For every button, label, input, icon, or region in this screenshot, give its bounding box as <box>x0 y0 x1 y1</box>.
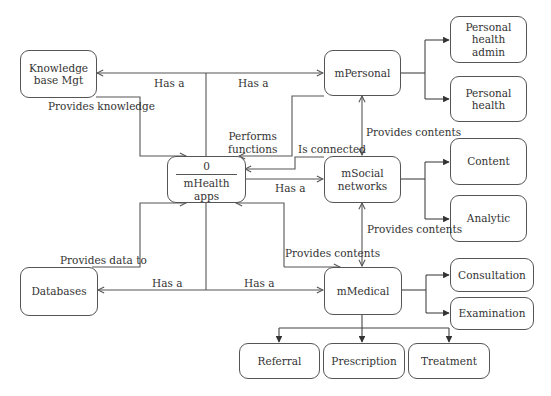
node-label: Personal health admin <box>466 21 512 59</box>
node-personal-health-admin[interactable]: Personal health admin <box>450 16 527 63</box>
node-databases[interactable]: Databases <box>20 267 98 316</box>
edge-label-has-a: Has a <box>244 277 274 289</box>
node-mpersonal[interactable]: mPersonal <box>324 50 401 96</box>
node-mmedical[interactable]: mMedical <box>324 267 402 315</box>
node-personal-health[interactable]: Personal health <box>450 76 527 122</box>
node-label: Analytic <box>467 212 510 225</box>
process-label: mHealth apps <box>168 177 245 202</box>
node-label: Treatment <box>421 355 477 368</box>
node-prescription[interactable]: Prescription <box>323 343 405 379</box>
process-divider <box>176 174 237 175</box>
node-label: Examination <box>459 307 526 320</box>
edge-label-provides-knowledge: Provides knowledge <box>48 100 155 112</box>
node-label: Content <box>467 155 510 168</box>
node-referral[interactable]: Referral <box>239 343 320 379</box>
node-label: mPersonal <box>335 67 391 80</box>
edge-label-has-a: Has a <box>238 77 268 89</box>
edge-label-provides-contents: Provides contents <box>285 247 380 259</box>
node-treatment[interactable]: Treatment <box>408 343 490 379</box>
node-knowledge-base-mgt[interactable]: Knowledge base Mgt <box>20 50 97 98</box>
edge-label-performs-functions: Performs functions <box>228 130 277 155</box>
edge-label-provides-data-to: Provides data to <box>60 254 147 266</box>
edge-label-provides-contents: Provides contents <box>367 223 462 235</box>
node-label: mMedical <box>337 285 390 298</box>
node-label: Prescription <box>331 355 396 368</box>
edge-label-is-connected: Is connected <box>298 143 366 155</box>
node-examination[interactable]: Examination <box>450 297 534 330</box>
node-label: Databases <box>31 285 86 298</box>
edge-label-provides-contents: Provides contents <box>366 126 461 138</box>
edge-label-has-a: Has a <box>152 277 182 289</box>
process-mhealth-apps[interactable]: 0 mHealth apps <box>167 156 246 203</box>
node-label: Consultation <box>458 269 526 282</box>
node-consultation[interactable]: Consultation <box>450 258 534 292</box>
node-label: Referral <box>258 355 302 368</box>
process-number: 0 <box>168 160 245 173</box>
edge-label-has-a: Has a <box>275 182 305 194</box>
node-label: mSocial networks <box>338 167 387 192</box>
node-msocial-networks[interactable]: mSocial networks <box>324 156 401 203</box>
edge-label-has-a: Has a <box>154 77 184 89</box>
node-label: Personal health <box>466 87 512 112</box>
node-content[interactable]: Content <box>450 138 527 185</box>
node-label: Knowledge base Mgt <box>29 62 88 87</box>
